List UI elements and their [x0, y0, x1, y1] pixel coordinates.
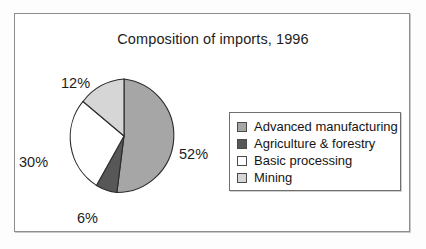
legend-item-advanced-manufacturing[interactable]: Advanced manufacturing	[237, 118, 400, 135]
legend-item-label: Mining	[254, 170, 292, 186]
pie-label-mining: 12%	[61, 75, 90, 91]
chart-title: Composition of imports, 1996	[15, 31, 411, 47]
pie-slice-advanced-manufacturing[interactable]	[117, 79, 174, 193]
figure-canvas: Composition of imports, 1996 52% 6% 30% …	[0, 0, 426, 249]
pie-label-agriculture-forestry: 6%	[77, 210, 98, 226]
legend-swatch-icon	[237, 156, 247, 166]
legend-item-agriculture-forestry[interactable]: Agriculture & forestry	[237, 135, 400, 152]
pie-label-advanced-manufacturing: 52%	[179, 146, 208, 162]
legend-item-label: Agriculture & forestry	[254, 136, 375, 152]
legend-item-label: Advanced manufacturing	[254, 119, 398, 135]
legend-box: Advanced manufacturing Agriculture & for…	[229, 112, 401, 191]
legend-swatch-icon	[237, 122, 247, 132]
legend-item-label: Basic processing	[254, 153, 352, 169]
legend-item-basic-processing[interactable]: Basic processing	[237, 152, 400, 169]
legend-swatch-icon	[237, 173, 247, 183]
pie-label-basic-processing: 30%	[19, 154, 48, 170]
pie-svg	[66, 78, 182, 194]
legend-swatch-icon	[237, 139, 247, 149]
legend-item-mining[interactable]: Mining	[237, 169, 400, 186]
chart-frame: Composition of imports, 1996 52% 6% 30% …	[14, 13, 410, 232]
pie-chart	[66, 78, 182, 194]
